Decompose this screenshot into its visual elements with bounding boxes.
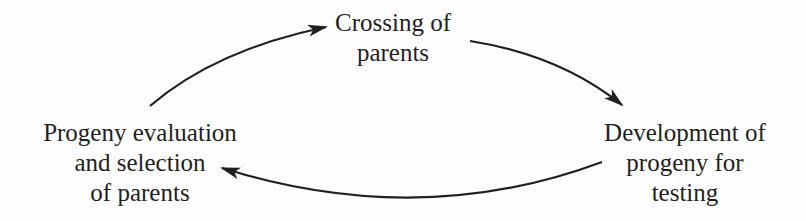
node-crossing-of-parents: Crossing of parents bbox=[318, 8, 468, 68]
node-label-line: Development of bbox=[575, 118, 795, 148]
node-label-line: of parents bbox=[20, 178, 260, 208]
node-label-line: Progeny evaluation bbox=[20, 118, 260, 148]
arrow-development-to-evaluation bbox=[222, 162, 602, 198]
node-label-line: Crossing of bbox=[318, 8, 468, 38]
node-label-line: parents bbox=[318, 38, 468, 68]
node-label-line: and selection bbox=[20, 148, 260, 178]
arrow-evaluation-to-crossing bbox=[150, 27, 326, 106]
node-progeny-evaluation: Progeny evaluation and selection of pare… bbox=[20, 118, 260, 208]
node-development-of-progeny: Development of progeny for testing bbox=[575, 118, 795, 208]
node-label-line: progeny for bbox=[575, 148, 795, 178]
arrow-crossing-to-development bbox=[470, 41, 622, 105]
node-label-line: testing bbox=[575, 178, 795, 208]
breeding-cycle-diagram: Crossing of parents Development of proge… bbox=[0, 0, 806, 221]
